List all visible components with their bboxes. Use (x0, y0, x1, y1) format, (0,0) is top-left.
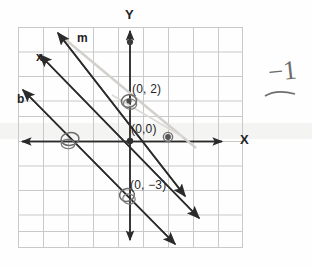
line-label-b: b (17, 92, 24, 106)
point-label-0-neg3: (0, −3) (130, 178, 166, 192)
point-label-0-2: (0, 2) (132, 82, 161, 96)
line-m (58, 33, 185, 196)
line-label-m: m (77, 31, 88, 45)
point-dot-y-top (127, 39, 133, 45)
grader-annotation-minus-one: −1 (266, 55, 298, 89)
axis-label-y: Y (125, 7, 134, 22)
axis-label-x: X (240, 132, 249, 147)
worksheet-page: Y X m x b (0, 2) (0,0) (0, −3) −1 (0, 0, 312, 268)
grader-annotation-underline (264, 88, 298, 100)
line-label-x: x (36, 50, 43, 64)
point-label-origin: (0,0) (131, 122, 157, 136)
point-dot-origin (127, 138, 133, 144)
